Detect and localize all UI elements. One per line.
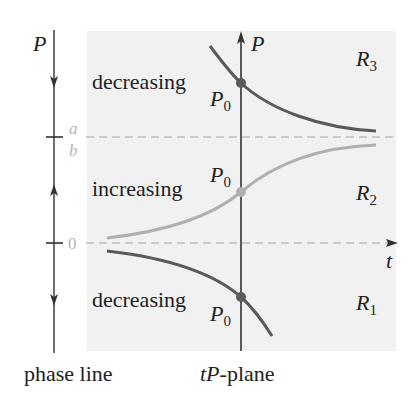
initial-symbol: P [210,301,223,326]
region-subscript: 1 [369,302,377,318]
logistic-phase-diagram: P a b 0 decreasing increasing decreasing… [0,0,414,403]
behavior-label-r2: increasing [92,178,182,200]
equilibrium-label-zero: 0 [68,235,77,252]
initial-subscript: 0 [223,174,231,190]
initial-point-r3 [236,78,246,88]
phase-line-axis-label: P [33,33,46,55]
diagram-graphics [0,0,414,403]
phase-line-caption: phase line [24,363,113,385]
equilibrium-label-a: a [69,120,78,137]
behavior-label-r3: decreasing [92,71,186,93]
initial-label-r1: P0 [210,303,231,329]
tp-plane-caption: tP-plane [200,363,275,385]
initial-point-r1 [236,292,246,302]
initial-symbol: P [210,162,223,187]
region-label-r2: R2 [356,182,377,208]
region-label-r3: R3 [356,48,377,74]
region-subscript: 2 [369,192,377,208]
region-label-r1: R1 [356,292,377,318]
tp-plane-caption-italic: tP [200,361,220,386]
tp-plane-caption-rest: -plane [220,361,275,386]
initial-point-r2 [236,187,246,197]
region-symbol: R [356,180,369,205]
initial-subscript: 0 [223,98,231,114]
region-symbol: R [356,290,369,315]
initial-label-r3: P0 [210,88,231,114]
equilibrium-label-b: b [69,142,78,159]
region-symbol: R [356,46,369,71]
t-axis-label: t [386,250,392,272]
p-axis-label: P [251,33,264,55]
initial-symbol: P [210,86,223,111]
initial-label-r2: P0 [210,164,231,190]
behavior-label-r1: decreasing [92,289,186,311]
initial-subscript: 0 [223,313,231,329]
region-subscript: 3 [369,58,377,74]
